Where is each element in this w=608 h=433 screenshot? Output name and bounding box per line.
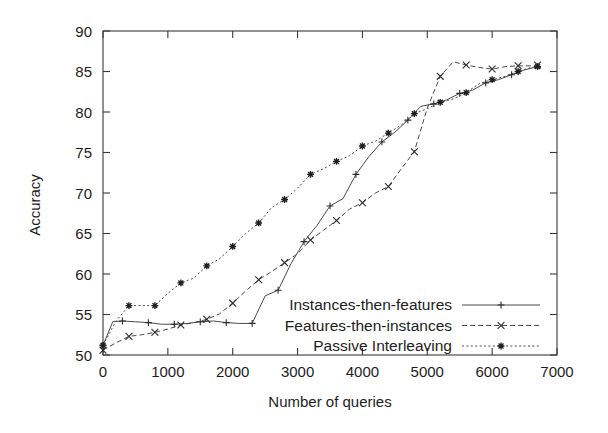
data-point-marker-star <box>203 263 210 270</box>
x-tick-label: 6000 <box>475 363 508 380</box>
y-axis-title: Accuracy <box>26 174 43 236</box>
y-tick-label: 65 <box>75 225 92 242</box>
data-point-marker-plus <box>353 171 360 178</box>
chart-figure: 505560657075808590 010002000300040005000… <box>0 0 608 433</box>
y-tick-label: 55 <box>75 306 92 323</box>
data-point-marker-plus <box>275 287 282 294</box>
data-point-marker-plus <box>327 203 334 210</box>
data-point-marker-star <box>411 110 418 117</box>
data-point-marker-x <box>255 276 262 283</box>
data-point-marker-plus <box>119 318 126 325</box>
data-point-marker-star <box>489 76 496 83</box>
data-point-marker-star <box>359 143 366 150</box>
data-point-marker-x <box>385 183 392 190</box>
y-tick-label: 70 <box>75 185 92 202</box>
data-point-marker-star <box>281 196 288 203</box>
x-tick-label: 0 <box>99 363 107 380</box>
data-point-marker-plus <box>145 319 152 326</box>
data-point-marker-x <box>281 259 288 266</box>
data-point-marker-star <box>515 68 522 75</box>
chart-legend: Instances-then-featuresFeatures-then-ins… <box>285 296 540 354</box>
data-point-marker-star <box>534 63 541 70</box>
data-point-marker-star <box>126 302 133 309</box>
data-point-marker-star <box>100 342 107 349</box>
y-tick-label: 60 <box>75 266 92 283</box>
x-tick-label: 4000 <box>346 363 379 380</box>
legend-label-3: Passive Interleaving <box>313 337 452 354</box>
y-tick-label: 50 <box>75 347 92 364</box>
data-point-marker-star <box>463 89 470 96</box>
data-point-marker-x <box>359 199 366 206</box>
y-axis-tick-labels: 505560657075808590 <box>75 23 92 364</box>
legend-label-2: Features-then-instances <box>285 317 452 334</box>
x-axis-tick-labels: 01000200030004000500060007000 <box>99 363 574 380</box>
x-tick-label: 7000 <box>540 363 573 380</box>
data-point-marker-x <box>437 73 444 80</box>
data-point-marker-x <box>151 329 158 336</box>
data-point-marker-plus <box>223 319 230 326</box>
y-tick-label: 75 <box>75 144 92 161</box>
data-point-marker-star <box>307 171 314 178</box>
data-point-marker-star <box>498 343 505 350</box>
data-point-marker-star <box>333 158 340 165</box>
data-point-marker-star <box>255 220 262 227</box>
x-tick-label: 5000 <box>411 363 444 380</box>
data-point-marker-x <box>333 217 340 224</box>
data-point-marker-star <box>437 99 444 106</box>
data-point-marker-star <box>385 130 392 137</box>
x-tick-label: 3000 <box>281 363 314 380</box>
accuracy-vs-queries-chart: 505560657075808590 010002000300040005000… <box>0 0 608 433</box>
data-point-marker-x <box>307 237 314 244</box>
x-tick-label: 1000 <box>151 363 184 380</box>
y-tick-label: 80 <box>75 104 92 121</box>
data-point-marker-star <box>229 243 236 250</box>
y-tick-label: 90 <box>75 23 92 40</box>
data-point-marker-plus <box>249 320 256 327</box>
data-point-marker-plus <box>498 302 505 309</box>
x-axis-title: Number of queries <box>268 393 391 410</box>
data-point-marker-star <box>177 280 184 287</box>
data-point-marker-x <box>126 333 133 340</box>
y-tick-label: 85 <box>75 63 92 80</box>
data-point-marker-x <box>463 62 470 69</box>
data-point-marker-x <box>229 300 236 307</box>
data-point-marker-star <box>151 302 158 309</box>
data-point-marker-x <box>411 148 418 155</box>
x-tick-label: 2000 <box>216 363 249 380</box>
legend-label-1: Instances-then-features <box>289 296 452 313</box>
